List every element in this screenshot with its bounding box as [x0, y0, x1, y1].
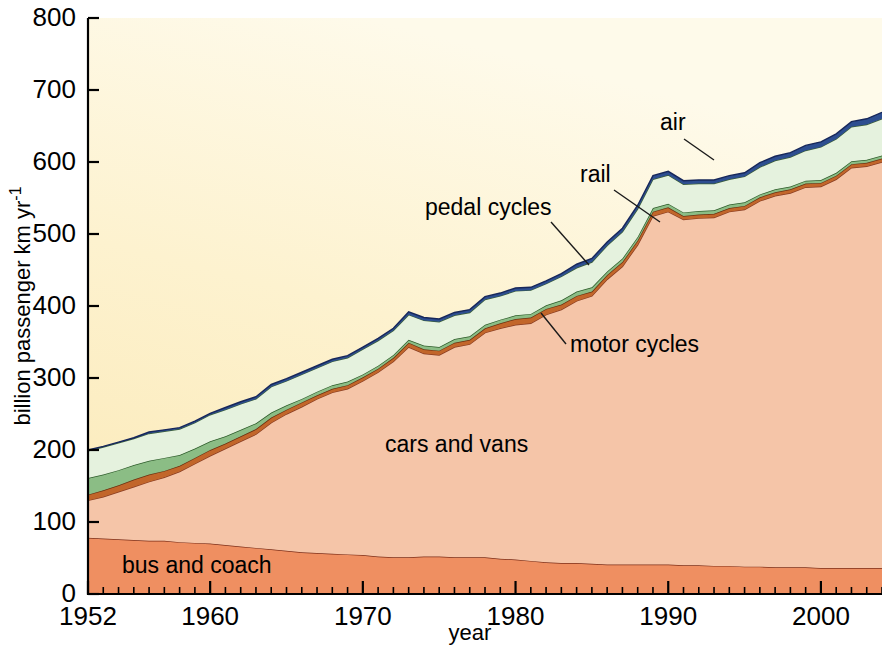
x-tick-label-1970: 1970 [334, 601, 392, 631]
series-label-motor-cycles: motor cycles [570, 331, 699, 357]
chart-canvas: 0100200300400500600700800195219601970198… [0, 0, 882, 646]
x-axis-title: year [449, 620, 492, 645]
x-tick-label-1990: 1990 [639, 601, 697, 631]
y-tick-label-200: 200 [33, 434, 76, 464]
y-tick-label-300: 300 [33, 362, 76, 392]
y-tick-label-700: 700 [33, 74, 76, 104]
x-tick-label-2000: 2000 [792, 601, 850, 631]
y-axis-title-group: billion passenger km yr-1 [7, 186, 35, 425]
series-label-air: air [660, 109, 686, 135]
y-axis-title-superscript: -1 [7, 186, 24, 200]
x-tick-label-1952: 1952 [59, 601, 117, 631]
y-tick-label-500: 500 [33, 218, 76, 248]
series-label-rail: rail [580, 161, 611, 187]
x-tick-label-1980: 1980 [487, 601, 545, 631]
y-tick-label-100: 100 [33, 506, 76, 536]
y-axis-title: billion passenger km yr-1 [7, 186, 35, 425]
y-axis-title-text: billion passenger km yr [10, 201, 35, 426]
series-label-cars-and-vans: cars and vans [385, 431, 528, 457]
stacked-area-chart: 0100200300400500600700800195219601970198… [0, 0, 882, 646]
y-tick-label-400: 400 [33, 290, 76, 320]
series-label-pedal-cycles: pedal cycles [425, 194, 552, 220]
y-tick-label-600: 600 [33, 146, 76, 176]
x-tick-label-1960: 1960 [181, 601, 239, 631]
series-label-bus-and-coach: bus and coach [122, 552, 272, 578]
y-tick-label-800: 800 [33, 2, 76, 32]
